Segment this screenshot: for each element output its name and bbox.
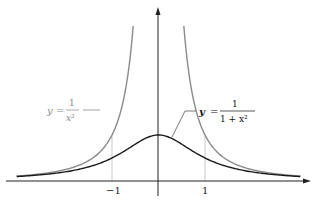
curve-inverse-square [17,26,133,176]
plot: y = 1 x² y = 1 1 + x² −1 1 [0,0,314,201]
label-y: y [198,106,206,117]
label-inverse-square: y = 1 x² [46,98,79,123]
label-eq: = [210,106,218,117]
label-eq: = [56,105,64,116]
y-axis-arrow-icon [156,7,161,15]
label-lorentzian: y = 1 1 + x² [198,99,255,124]
label-denominator: x² [66,113,75,123]
curve-inverse-square-mirror [184,26,300,176]
tick-label-pos1: 1 [202,185,208,196]
leader-line-lorentzian-diag [172,111,185,137]
label-numerator: 1 [232,99,238,109]
label-denominator: 1 + x² [220,114,248,124]
label-y: y [46,105,53,116]
tick-label-neg1: −1 [106,185,121,196]
label-numerator: 1 [69,98,75,108]
x-axis-arrow-icon [303,179,311,184]
